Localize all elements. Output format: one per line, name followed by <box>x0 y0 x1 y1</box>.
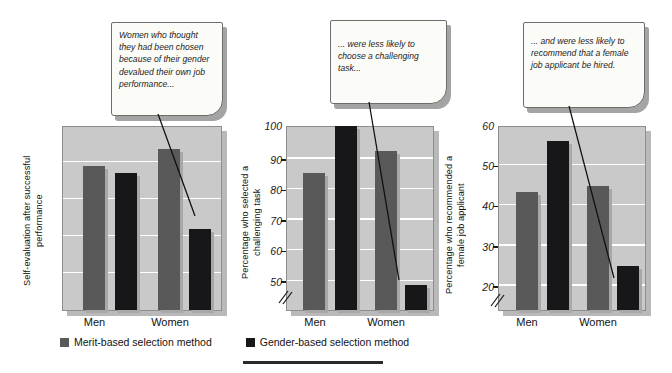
bar-body <box>115 173 137 310</box>
tick-mark <box>281 190 286 192</box>
axis-break-marker <box>277 289 293 307</box>
legend-item-gender: Gender-based selection method <box>246 336 409 348</box>
axis-break-marker <box>489 292 505 310</box>
bar-body <box>189 229 211 310</box>
tick-mark <box>281 281 286 283</box>
callout-2-leader-line <box>366 100 426 285</box>
bar-men-merit <box>516 192 538 310</box>
bar-body <box>303 173 325 310</box>
footer-rule <box>243 361 383 364</box>
callout-text: ... and were less likely to recommend th… <box>531 35 636 72</box>
legend-item-merit: Merit-based selection method <box>60 336 212 348</box>
bar-men-merit <box>303 173 325 310</box>
bar-men-gender <box>335 126 357 310</box>
legend: Merit-based selection method Gender-base… <box>60 336 409 348</box>
callout-1: Women who thought they had been chosen b… <box>111 22 223 116</box>
x-label-men: Men <box>284 316 346 328</box>
chart-panel-challenging-task: Percentage who selected a challenging ta… <box>236 0 448 373</box>
bar-women-gender <box>405 285 427 310</box>
bar-women-gender <box>189 229 211 310</box>
bar-body <box>83 166 105 310</box>
callout-3-leader-line <box>566 104 636 289</box>
y-tick-60: 60 <box>482 120 494 132</box>
legend-swatch-gender-icon <box>246 338 255 347</box>
chart-panel-recommend-applicant: Percentage who recommended a female job … <box>448 0 672 373</box>
x-label-women: Women <box>135 316 205 328</box>
callout-1-leader-line <box>150 112 230 222</box>
tick-mark <box>493 166 498 168</box>
legend-swatch-merit-icon <box>60 338 69 347</box>
callout-text: ... were less likely to choose a challen… <box>338 38 438 75</box>
figure-root: Self-evaluation after successful perform… <box>0 0 672 373</box>
chart-panel-self-evaluation: Self-evaluation after successful perform… <box>0 0 236 373</box>
tick-mark <box>281 220 286 222</box>
x-label-women: Women <box>351 316 421 328</box>
bar-men-merit <box>83 166 105 310</box>
callout-3: ... and were less likely to recommend th… <box>523 22 645 108</box>
y-axis-title: Percentage who selected a challenging ta… <box>240 148 266 296</box>
tick-mark <box>493 286 498 288</box>
bar-body <box>335 126 357 310</box>
x-label-men: Men <box>62 316 127 328</box>
x-label-women: Women <box>563 316 633 328</box>
y-axis-title: Self-evaluation after successful perform… <box>22 140 48 302</box>
y-axis-title: Percentage who recommended a female job … <box>444 142 470 308</box>
bar-men-gender <box>115 173 137 310</box>
legend-label-merit: Merit-based selection method <box>74 336 212 348</box>
x-label-men: Men <box>496 316 558 328</box>
tick-mark <box>493 246 498 248</box>
callout-text: Women who thought they had been chosen b… <box>119 29 214 90</box>
y-tick-100: 100 <box>264 120 282 132</box>
callout-2: ... were less likely to choose a challen… <box>330 20 447 104</box>
legend-label-gender: Gender-based selection method <box>260 336 409 348</box>
bar-body <box>405 285 427 310</box>
bar-body <box>516 192 538 310</box>
tick-mark <box>281 159 286 161</box>
tick-mark <box>493 206 498 208</box>
tick-mark <box>281 251 286 253</box>
